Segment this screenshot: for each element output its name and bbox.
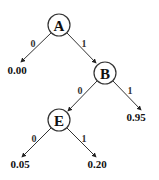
- edge-label-A-0: 0: [31, 38, 36, 49]
- decision-tree-diagram: 0 1 0 1 0 1 A B E 0.00 0.95 0.05 0.20: [0, 0, 159, 180]
- leaf-value-B1: 0.95: [126, 111, 146, 123]
- edge-label-B-1: 1: [128, 85, 133, 96]
- node-E-label: E: [54, 113, 64, 129]
- node-B: B: [94, 62, 116, 84]
- leaf-value-A0: 0.00: [7, 64, 27, 76]
- node-E: E: [48, 109, 70, 131]
- edge-A-0: [21, 33, 51, 62]
- node-A: A: [48, 14, 70, 36]
- leaf-value-E1: 0.20: [87, 158, 107, 170]
- edges: 0 1 0 1 0 1: [21, 33, 141, 157]
- edge-E-0: [22, 128, 51, 157]
- edge-label-A-1: 1: [82, 38, 87, 49]
- node-A-label: A: [54, 18, 65, 34]
- node-B-label: B: [100, 66, 110, 82]
- leaf-value-E0: 0.05: [10, 158, 30, 170]
- edge-label-B-0: 0: [78, 85, 83, 96]
- edge-label-E-1: 1: [82, 133, 87, 144]
- edge-label-E-0: 0: [32, 133, 37, 144]
- edge-B-0: [68, 81, 97, 111]
